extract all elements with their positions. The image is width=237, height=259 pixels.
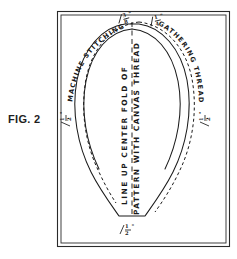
svg-text:2: 2 [125, 230, 129, 236]
border-outer-rule [58, 12, 230, 247]
svg-text:1: 1 [59, 117, 65, 121]
svg-text:2: 2 [66, 117, 72, 121]
svg-text:1: 1 [125, 223, 129, 229]
svg-text:2: 2 [205, 117, 211, 121]
svg-text:": " [132, 223, 135, 229]
center-fold-label-line2: PATTERN WITH CANVAS THREAD [132, 42, 141, 215]
pattern-drawing: MACHINE STITCHING GATHERING THREAD LINE … [0, 0, 237, 259]
figure-2-diagram: FIG. 2 MACHINE STITCHING GATHERING THREA… [0, 0, 237, 259]
svg-text:": " [59, 112, 65, 115]
svg-text:": " [198, 112, 204, 115]
center-fold-label-line1: LINE UP CENTER FOLD OF [120, 66, 129, 205]
svg-text:1: 1 [198, 117, 204, 121]
